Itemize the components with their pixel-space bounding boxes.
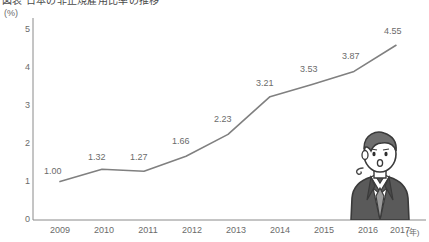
data-label-2009: 1.00	[44, 166, 62, 176]
data-label-2013: 2.23	[214, 114, 232, 124]
left-eye	[372, 152, 375, 156]
ear	[362, 151, 368, 160]
data-label-2010: 1.32	[88, 152, 106, 162]
sigh-mark-icon	[357, 168, 363, 174]
right-eye	[384, 152, 387, 156]
data-label-2016: 3.87	[342, 51, 360, 61]
mouth	[377, 160, 382, 167]
data-label-2011: 1.27	[130, 152, 148, 162]
data-label-2012: 1.66	[172, 136, 190, 146]
data-label-2015: 3.53	[300, 64, 318, 74]
chart-screenshot: 図表 日本の非正規雇用比率の推移 (%) (年) 5 4 3 2 1 0 200…	[0, 0, 429, 242]
data-label-2017: 4.55	[384, 26, 402, 36]
worried-businessman-illustration	[337, 128, 423, 220]
data-label-2014: 3.21	[256, 78, 274, 88]
businessman-svg	[337, 128, 423, 220]
